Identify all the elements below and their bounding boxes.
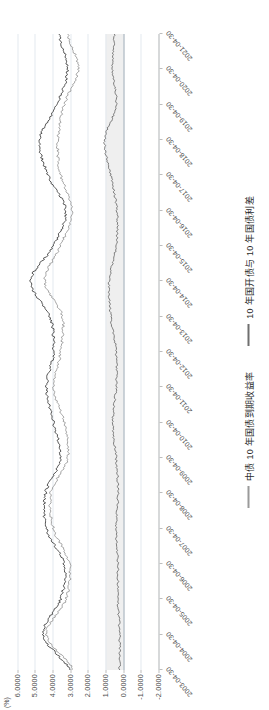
y-axis-tick-mark [52, 670, 53, 673]
y-axis-tick-label: -2.0000 [154, 674, 163, 700]
x-axis-tick-mark [159, 280, 162, 281]
legend-item-spread: 10 年国开债与 10 年国债利差 [242, 196, 255, 346]
x-axis-tick-label: 2011-04-30 [164, 383, 193, 415]
x-axis-tick-label: 2003-04-30 [164, 666, 193, 699]
x-axis-tick-mark [159, 351, 162, 352]
x-axis-tick-mark [159, 386, 162, 387]
y-axis-tick-mark [34, 670, 35, 673]
y-axis-tick-label: 6.0000 [12, 674, 21, 697]
y-axis-tick-label: 1.0000 [101, 674, 110, 697]
x-axis-tick-label: 2009-04-30 [164, 454, 193, 487]
x-axis-tick-mark [159, 492, 162, 493]
y-axis-tick-label: 5.0000 [30, 674, 39, 697]
x-axis-tick-mark [159, 245, 162, 246]
x-axis-tick-mark [159, 669, 162, 670]
x-axis-tick-label: 2015-04-30 [164, 242, 193, 275]
plot-area [8, 34, 158, 670]
y-axis-tick-mark [158, 670, 159, 673]
chart-screenshot: 中信证券研究部 (%) 6.00005.00004.00003.00002.00… [0, 0, 269, 710]
x-axis-tick-label: 2013-04-30 [164, 312, 193, 345]
x-axis-tick-mark [159, 104, 162, 105]
x-axis-tick-mark [159, 68, 162, 69]
x-axis-tick-label: 2012-04-30 [164, 348, 193, 381]
chart-figure: 中信证券研究部 (%) 6.00005.00004.00003.00002.00… [0, 0, 269, 710]
cdb-yield-line [29, 34, 69, 670]
y-axis-tick-label: 2.0000 [83, 674, 92, 697]
chart-legend: 中债 10 年国债到期收益率 10 年国开债与 10 年国债利差 [236, 34, 260, 670]
x-axis-tick-label: 2020-04-30 [164, 65, 193, 98]
y-axis-tick-mark [123, 670, 124, 673]
x-axis: 2003-04-302004-04-302005-04-302006-04-30… [159, 34, 235, 670]
y-axis-tick-mark [17, 670, 18, 673]
x-axis-tick-label: 2008-04-30 [164, 489, 193, 522]
y-axis-tick-mark [105, 670, 106, 673]
x-axis-tick-mark [159, 528, 162, 529]
legend-label-treasury-yield: 中债 10 年国债到期收益率 [242, 372, 255, 481]
x-axis-tick-label: 2006-04-30 [164, 560, 193, 593]
x-axis-tick-mark [159, 316, 162, 317]
legend-swatch-spread [247, 324, 249, 346]
x-axis-tick-label: 2005-04-30 [164, 595, 193, 628]
y-axis-tick-mark [87, 670, 88, 673]
y-axis: (%) 6.00005.00004.00003.00002.00001.0000… [0, 670, 158, 710]
x-axis-tick-label: 2019-04-30 [164, 100, 193, 133]
x-axis-tick-mark [159, 457, 162, 458]
y-axis-tick-label: 3.0000 [65, 674, 74, 697]
legend-label-spread: 10 年国开债与 10 年国债利差 [242, 196, 255, 319]
x-axis-tick-mark [159, 563, 162, 564]
x-axis-tick-mark [159, 422, 162, 423]
y-axis-tick-label: 4.0000 [48, 674, 57, 697]
legend-item-treasury-yield: 中债 10 年国债到期收益率 [242, 372, 255, 508]
x-axis-tick-label: 2010-04-30 [164, 418, 193, 451]
y-axis-tick-label: 0.0000 [118, 674, 127, 697]
y-axis-tick-label: -1.0000 [136, 674, 145, 700]
y-axis-tick-mark [140, 670, 141, 673]
x-axis-tick-label: 2017-04-30 [164, 171, 193, 204]
legend-swatch-treasury-yield [247, 486, 249, 508]
y-axis-unit-label: (%) [2, 697, 9, 708]
x-axis-tick-mark [159, 174, 162, 175]
y-axis-tick-mark [70, 670, 71, 673]
x-axis-tick-mark [159, 210, 162, 211]
x-axis-tick-label: 2016-04-30 [164, 206, 193, 239]
x-axis-tick-label: 2004-04-30 [164, 630, 193, 663]
x-axis-tick-label: 2021-04-30 [164, 30, 193, 63]
series-layer [8, 34, 158, 670]
x-axis-tick-mark [159, 598, 162, 599]
x-axis-tick-label: 2014-04-30 [164, 277, 193, 310]
x-axis-tick-mark [159, 139, 162, 140]
spread-line [103, 34, 120, 670]
treasury-yield-line [43, 34, 79, 670]
x-axis-tick-mark [159, 33, 162, 34]
x-axis-tick-mark [159, 634, 162, 635]
x-axis-tick-label: 2018-04-30 [164, 136, 193, 169]
x-axis-tick-label: 2007-04-30 [164, 524, 193, 557]
